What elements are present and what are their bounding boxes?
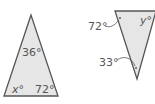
right-triangle: 72° y° 33°: [88, 11, 155, 79]
angle-marker-top-left: [119, 17, 121, 19]
right-angle-degree-symbol: °: [147, 14, 153, 27]
left-angle-bottom-left-label: x°: [11, 83, 24, 96]
left-angle-bottom-right-label: 72°: [35, 83, 55, 96]
left-angle-degree-symbol: °: [19, 83, 25, 96]
triangles-diagram: 36° x° 72° 72° y° 33°: [0, 0, 155, 104]
left-triangle: 36° x° 72°: [4, 15, 58, 96]
right-angle-top-right-label: y°: [139, 14, 152, 27]
right-angle-bottom-label: 33°: [99, 56, 119, 69]
angle-marker-bottom: [135, 67, 137, 69]
right-angle-top-left-label: 72°: [88, 20, 108, 33]
left-angle-top-label: 36°: [22, 46, 42, 59]
